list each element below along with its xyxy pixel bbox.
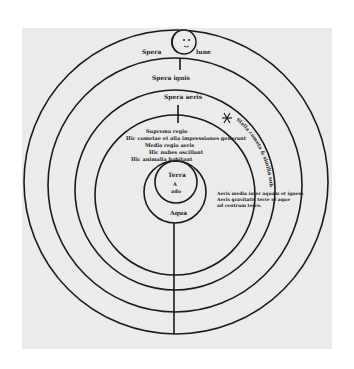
label-terra-sub: ado (171, 188, 182, 194)
label-spera-ignis: Spera ignis (152, 74, 191, 82)
label-air-line-4: Hic animalia habitant (131, 156, 193, 162)
label-air-line-2: Media regio aeris (145, 142, 194, 149)
star-icon (222, 113, 232, 123)
label-air-line-3: Hic nubes oscillant (149, 149, 204, 155)
label-right-note-3: ad centrum terre. (217, 203, 262, 208)
label-air-line-1: Hic cometae et alia impressiones generan… (126, 135, 247, 142)
label-terra-glyph: A (172, 181, 177, 187)
label-spera-lune-left: Spera (142, 48, 162, 56)
label-right-note-2: Aeris gravitatis terre et aque (216, 197, 290, 202)
moon-icon (171, 30, 196, 54)
label-right-note-1: Aeris media inter aquam et ignem (216, 191, 303, 196)
label-spera-aeris: Spera aeris (164, 93, 203, 101)
label-suprema-regio: Suprema regio (146, 128, 188, 135)
label-spera-lune-right: lune (196, 48, 211, 55)
cosmology-diagram: Spera lune Spera ignis Spera aeris Supre… (0, 0, 354, 369)
label-terra: Terra (168, 171, 186, 178)
label-aqua: Aqua (169, 209, 187, 217)
